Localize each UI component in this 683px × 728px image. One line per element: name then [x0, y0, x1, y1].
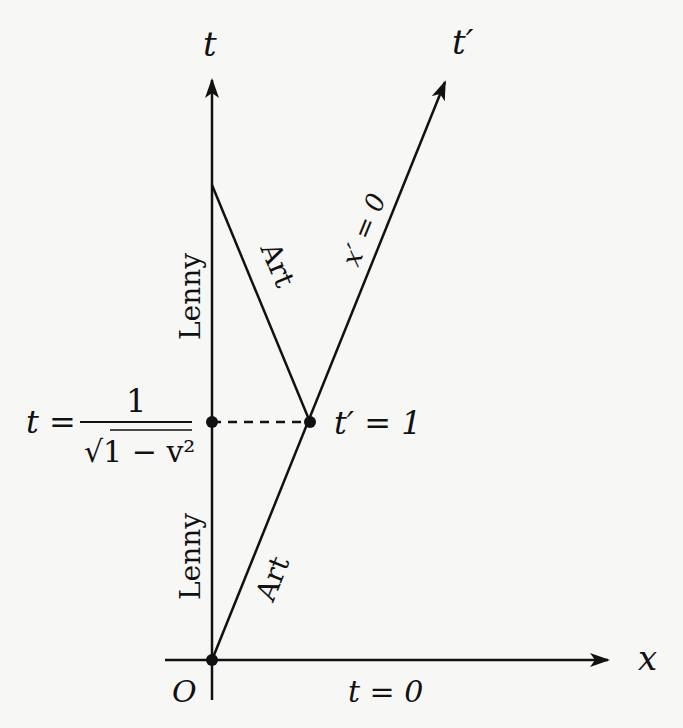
art-label-upper: Art [253, 237, 302, 293]
lenny-event-dot [206, 416, 218, 428]
t-prime-equals-one-label: t′ = 1 [334, 404, 422, 442]
origin-label: O [172, 674, 197, 709]
art-return-worldline [212, 185, 310, 422]
t-formula-lhs: t = [26, 403, 76, 441]
x-prime-equals-zero-label: x′ = 0 [336, 189, 392, 270]
t-prime-axis [212, 82, 445, 660]
x-axis-label: x [638, 638, 657, 678]
spacetime-diagram: t t′ x O t = 0 t′ = 1 x′ = 0 Lenny Lenny… [0, 0, 683, 728]
t-formula-numerator: 1 [126, 382, 146, 420]
art-turnaround-dot [304, 416, 316, 428]
t-axis-label: t [203, 24, 217, 64]
t-formula-denominator: √1 − v² [84, 434, 195, 469]
t-prime-axis-label: t′ [452, 22, 474, 62]
art-label-lower: Art [249, 551, 297, 607]
lenny-label-upper: Lenny [174, 253, 207, 340]
t-equals-zero-label: t = 0 [348, 674, 423, 709]
origin-dot [206, 654, 218, 666]
lenny-label-lower: Lenny [174, 513, 207, 600]
t-formula: t = 1 √1 − v² [26, 382, 195, 469]
